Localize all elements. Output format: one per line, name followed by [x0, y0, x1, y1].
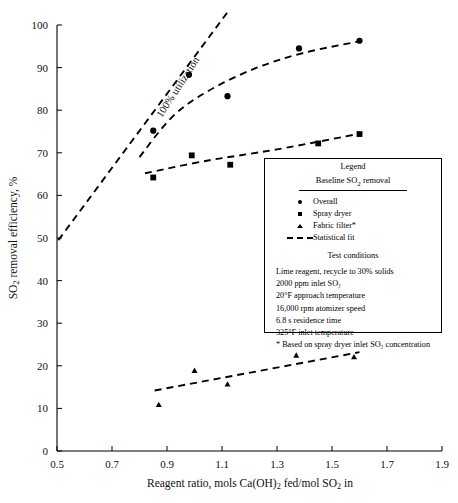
- data-point-triangle: [293, 352, 299, 357]
- legend-subtitle-text-b: removal: [361, 176, 391, 185]
- fit-curve: [155, 352, 360, 390]
- y-tick-label: 80: [37, 104, 49, 116]
- x-tick-label: 0.7: [105, 458, 119, 470]
- legend-divider: [299, 190, 407, 191]
- legend-condition-line: Lime reagent, recycle to 30% solids: [276, 266, 441, 278]
- data-point-square: [227, 162, 233, 168]
- x-tick-label: 1.3: [270, 458, 284, 470]
- triangle-marker-glyph: [297, 224, 303, 228]
- y-axis-tick-labels: 0102030405060708090100: [32, 19, 49, 457]
- legend-entry: Spray dryer: [287, 208, 441, 220]
- y-tick-label: 20: [37, 360, 49, 372]
- circle-marker: [287, 200, 313, 204]
- data-point-triangle: [156, 402, 162, 407]
- y-axis-title: SO2 removal efficiency, %: [7, 176, 21, 299]
- legend-entry: Fabric filter*: [287, 220, 441, 232]
- y-tick-label: 10: [37, 402, 49, 414]
- x-tick-label: 1.5: [325, 458, 339, 470]
- legend-entry: Statistical fit: [287, 232, 441, 244]
- dashed-line-marker-glyph: [287, 237, 313, 239]
- y-tick-label: 100: [32, 19, 49, 31]
- data-point-square: [357, 131, 363, 137]
- circle-marker-glyph: [298, 200, 302, 204]
- data-point-square: [150, 175, 156, 181]
- x-tick-label: 1.7: [380, 458, 394, 470]
- data-point-triangle: [351, 354, 357, 359]
- y-tick-label: 0: [43, 445, 49, 457]
- data-point-circle: [356, 38, 362, 44]
- legend-condition-line: 16,000 rpm atomizer speed: [276, 303, 441, 315]
- data-point-triangle: [225, 381, 231, 386]
- square-marker: [287, 212, 313, 216]
- y-tick-label: 70: [37, 147, 49, 159]
- legend-condition-line: * Based on spray dryer inlet SO₂ concent…: [276, 339, 441, 351]
- legend-box: Legend Baseline SO2 removal OverallSpray…: [264, 158, 442, 333]
- x-axis-ticks: [57, 446, 442, 451]
- square-marker-glyph: [298, 212, 302, 216]
- data-point-circle: [150, 128, 156, 134]
- legend-entry-label: Overall: [313, 198, 338, 206]
- y-tick-label: 40: [37, 275, 49, 287]
- legend-condition-line: 325°F inlet temperature: [276, 327, 441, 339]
- legend-title: Legend: [265, 163, 441, 172]
- data-point-square: [189, 152, 195, 158]
- dashed-line-marker: [287, 237, 313, 239]
- x-axis-tick-labels: 0.50.70.91.11.31.51.71.9: [50, 458, 449, 470]
- legend-entry: Overall: [287, 196, 441, 208]
- legend-entry-list: OverallSpray dryerFabric filter*Statisti…: [265, 196, 441, 244]
- data-point-circle: [224, 93, 230, 99]
- legend-conditions-list: Lime reagent, recycle to 30% solids2000 …: [265, 266, 441, 351]
- y-tick-label: 60: [37, 189, 49, 201]
- y-tick-label: 50: [37, 232, 49, 244]
- legend-condition-line: 20°F approach temperature: [276, 290, 441, 302]
- y-tick-label: 90: [37, 62, 49, 74]
- utilization-annotation: 100% utilization: [154, 54, 202, 119]
- x-tick-label: 0.9: [160, 458, 174, 470]
- x-tick-label: 0.5: [50, 458, 64, 470]
- legend-condition-line: 6.8 s residence time: [276, 315, 441, 327]
- x-tick-label: 1.9: [435, 458, 449, 470]
- legend-subtitle: Baseline SO2 removal: [265, 177, 441, 188]
- data-point-triangle: [192, 368, 198, 373]
- legend-entry-label: Spray dryer: [313, 210, 351, 218]
- data-point-circle: [296, 45, 302, 51]
- chart-figure: 0102030405060708090100 0.50.70.91.11.31.…: [0, 0, 458, 503]
- legend-subtitle-text-a: Baseline SO: [316, 176, 358, 185]
- legend-condition-line: 2000 ppm inlet SO₂: [276, 278, 441, 290]
- fit-curve: [58, 12, 227, 240]
- legend-conditions-title: Test conditions: [265, 252, 441, 261]
- x-tick-label: 1.1: [215, 458, 229, 470]
- triangle-marker: [287, 224, 313, 228]
- y-tick-label: 30: [37, 317, 49, 329]
- legend-entry-label: Statistical fit: [313, 234, 355, 242]
- data-point-square: [315, 141, 321, 147]
- x-axis-title: Reagent ratio, mols Ca(OH)2 fed/mol SO2 …: [147, 477, 353, 491]
- legend-entry-label: Fabric filter*: [313, 222, 356, 230]
